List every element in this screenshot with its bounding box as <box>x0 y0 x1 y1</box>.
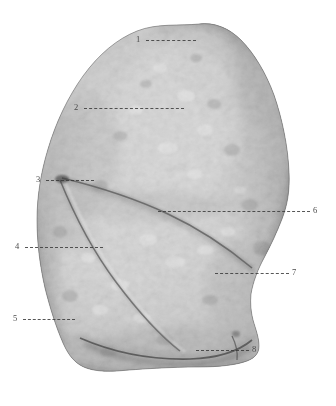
leader-line-5 <box>23 319 75 320</box>
leader-line-6 <box>158 211 310 212</box>
leader-line-3 <box>46 180 94 181</box>
lung-body <box>0 0 336 406</box>
lung-specimen-figure <box>0 0 336 406</box>
label-5: 5 <box>13 314 17 323</box>
label-4: 4 <box>15 242 19 251</box>
label-2: 2 <box>74 103 78 112</box>
label-6: 6 <box>313 206 317 215</box>
leader-line-7 <box>215 273 289 274</box>
leader-line-1 <box>146 40 196 41</box>
anatomical-plate: 12345678 <box>0 0 336 406</box>
leader-line-8 <box>196 350 249 351</box>
label-8: 8 <box>252 345 256 354</box>
label-7: 7 <box>292 268 296 277</box>
fissure-apex-notch <box>55 175 69 183</box>
label-1: 1 <box>136 35 140 44</box>
leader-line-4 <box>25 247 103 248</box>
label-3: 3 <box>36 175 40 184</box>
leader-line-2 <box>84 108 184 109</box>
